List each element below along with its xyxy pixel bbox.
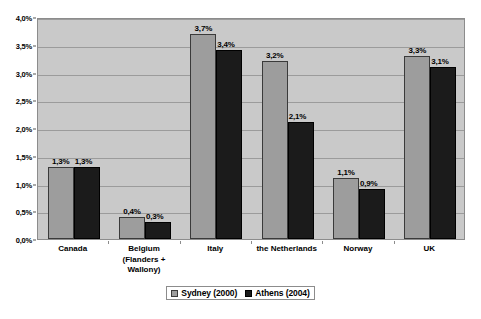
legend-label: Athens (2004) xyxy=(255,288,309,298)
y-axis-tick-label: 2,5% xyxy=(16,97,32,106)
x-axis-category-line: UK xyxy=(394,244,465,255)
legend-box: Sydney (2000)Athens (2004) xyxy=(166,286,314,300)
bar-value-label: 3,7% xyxy=(195,24,212,33)
x-axis-category-label: Belgium(Flanders +Wallony) xyxy=(108,244,179,276)
x-axis-category-label: Italy xyxy=(180,244,251,255)
bar-value-label: 1,3% xyxy=(75,157,92,166)
bar xyxy=(119,217,145,239)
y-axis-tick-label: 2,0% xyxy=(16,125,32,134)
legend-label: Sydney (2000) xyxy=(181,288,237,298)
bar-value-label: 3,2% xyxy=(266,51,283,60)
x-axis-category-line: Norway xyxy=(322,244,393,255)
y-axis-tick-mark xyxy=(33,240,36,241)
bar xyxy=(288,122,314,239)
chart-legend: Sydney (2000)Athens (2004) xyxy=(0,286,481,300)
bar-value-label: 3,4% xyxy=(217,40,234,49)
x-axis-category-label: the Netherlands xyxy=(251,244,322,255)
bar-value-label: 1,1% xyxy=(337,168,354,177)
bar-group xyxy=(109,19,180,239)
x-axis-tick-mark xyxy=(394,241,395,244)
x-axis-category-line: the Netherlands xyxy=(251,244,322,255)
bar xyxy=(262,61,288,239)
y-axis-tick-mark xyxy=(33,212,36,213)
x-axis-category-label: Canada xyxy=(37,244,108,255)
y-axis-tick-label: 3,5% xyxy=(16,41,32,50)
y-axis-tick-mark xyxy=(33,101,36,102)
y-axis-tick-label: 0,0% xyxy=(16,236,32,245)
plot-area: 1,3%1,3%0,4%0,3%3,7%3,4%3,2%2,1%1,1%0,9%… xyxy=(37,18,465,240)
bar-value-label: 0,9% xyxy=(360,179,377,188)
bar-value-label: 3,1% xyxy=(431,57,448,66)
bar-value-label: 1,3% xyxy=(52,157,69,166)
y-axis-tick-mark xyxy=(33,45,36,46)
x-axis-category-line: Belgium xyxy=(108,244,179,255)
y-axis-tick-mark xyxy=(33,73,36,74)
x-axis-category-label: Norway xyxy=(322,244,393,255)
bars-layer: 1,3%1,3%0,4%0,3%3,7%3,4%3,2%2,1%1,1%0,9%… xyxy=(38,19,464,239)
bar xyxy=(430,67,456,239)
bar xyxy=(216,50,242,239)
y-axis-tick-label: 1,0% xyxy=(16,180,32,189)
x-axis-tick-mark xyxy=(180,241,181,244)
bar xyxy=(145,222,171,239)
bar-value-label: 2,1% xyxy=(289,112,306,121)
legend-swatch-icon xyxy=(171,290,178,297)
x-axis-category-label: UK xyxy=(394,244,465,255)
y-axis-tick-mark xyxy=(33,129,36,130)
y-axis-tick-mark xyxy=(33,18,36,19)
bar-value-label: 0,4% xyxy=(123,207,140,216)
legend-entry: Athens (2004) xyxy=(245,288,309,298)
bar-chart: 0,0%0,5%1,0%1,5%2,0%2,5%3,0%3,5%4,0% 1,3… xyxy=(0,0,481,319)
bar xyxy=(74,167,100,239)
bar xyxy=(404,56,430,239)
y-axis-tick-mark xyxy=(33,156,36,157)
y-axis-tick-mark xyxy=(33,184,36,185)
y-axis: 0,0%0,5%1,0%1,5%2,0%2,5%3,0%3,5%4,0% xyxy=(0,18,36,240)
x-axis-category-line: Wallony) xyxy=(108,265,179,276)
y-axis-tick-label: 0,5% xyxy=(16,208,32,217)
y-axis-tick-label: 4,0% xyxy=(16,14,32,23)
bar-value-label: 3,3% xyxy=(409,46,426,55)
x-axis-category-line: (Flanders + xyxy=(108,255,179,266)
legend-swatch-icon xyxy=(245,290,252,297)
x-axis: CanadaBelgium(Flanders +Wallony)Italythe… xyxy=(37,242,465,288)
legend-entry: Sydney (2000) xyxy=(171,288,237,298)
x-axis-tick-mark xyxy=(251,241,252,244)
bar xyxy=(359,189,385,239)
x-axis-category-line: Canada xyxy=(37,244,108,255)
bar xyxy=(190,34,216,239)
x-axis-tick-mark xyxy=(322,241,323,244)
y-axis-tick-label: 3,0% xyxy=(16,69,32,78)
x-axis-category-line: Italy xyxy=(180,244,251,255)
bar xyxy=(333,178,359,239)
x-axis-tick-mark xyxy=(108,241,109,244)
bar xyxy=(48,167,74,239)
y-axis-tick-label: 1,5% xyxy=(16,152,32,161)
bar-value-label: 0,3% xyxy=(146,212,163,221)
